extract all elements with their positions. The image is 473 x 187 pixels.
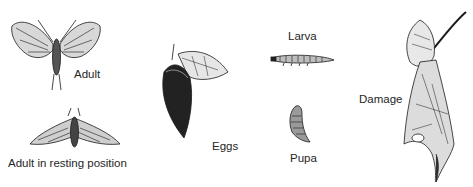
label-adult: Adult [74, 68, 100, 80]
larva-illustration [270, 52, 336, 68]
pupa-illustration [286, 104, 316, 144]
eggs-on-leaf-illustration [158, 42, 238, 142]
label-adult-resting: Adult in resting position [8, 157, 127, 169]
label-eggs: Eggs [212, 140, 238, 152]
adult-moth-illustration [8, 12, 103, 92]
label-larva: Larva [288, 30, 317, 42]
adult-resting-moth-illustration [28, 104, 124, 154]
damaged-leaf-illustration [392, 4, 472, 184]
label-pupa: Pupa [290, 152, 317, 164]
